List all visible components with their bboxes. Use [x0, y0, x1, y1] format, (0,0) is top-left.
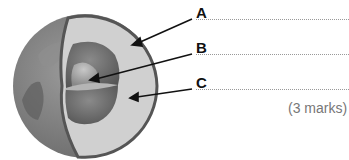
cutaway: [61, 16, 157, 157]
answer-line-c[interactable]: [196, 89, 349, 90]
earth-diagram: [0, 0, 349, 160]
marks-text: (3 marks): [288, 100, 347, 116]
answer-line-a[interactable]: [196, 19, 349, 20]
answer-line-b[interactable]: [196, 54, 349, 55]
